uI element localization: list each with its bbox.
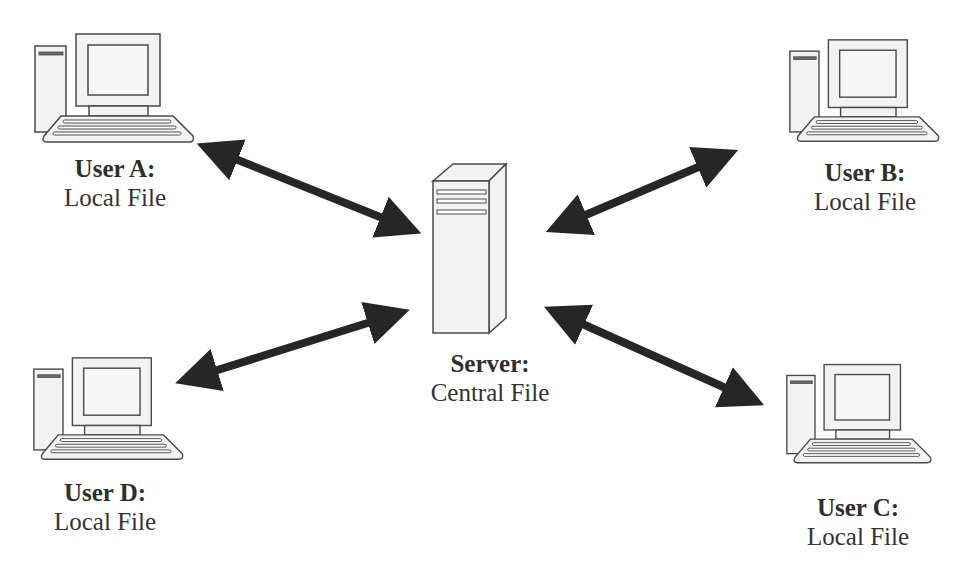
user-b-node: User B: Local File bbox=[785, 35, 955, 235]
arrow-user-a-server bbox=[213, 150, 405, 227]
user-a-node: User A: Local File bbox=[30, 30, 200, 230]
desktop-computer-icon bbox=[32, 355, 187, 465]
server-title: Server: bbox=[405, 350, 575, 379]
desktop-computer-icon bbox=[788, 37, 943, 147]
desktop-computer-icon bbox=[33, 32, 198, 147]
desktop-computer-icon bbox=[785, 360, 935, 470]
user-b-title: User B: bbox=[780, 159, 950, 188]
server-tower-icon bbox=[430, 160, 510, 335]
user-b-subtitle: Local File bbox=[780, 188, 950, 217]
user-a-title: User A: bbox=[30, 155, 200, 184]
arrow-user-d-server bbox=[192, 315, 393, 378]
server-node: Server: Central File bbox=[420, 158, 560, 423]
user-d-node: User D: Local File bbox=[30, 355, 200, 555]
user-d-title: User D: bbox=[20, 479, 190, 508]
user-a-subtitle: Local File bbox=[30, 184, 200, 213]
server-subtitle: Central File bbox=[405, 379, 575, 408]
user-c-node: User C: Local File bbox=[785, 360, 955, 580]
user-c-title: User C: bbox=[773, 494, 943, 523]
user-d-subtitle: Local File bbox=[20, 508, 190, 537]
user-c-subtitle: Local File bbox=[773, 523, 943, 552]
arrow-user-b-server bbox=[562, 157, 722, 225]
arrow-user-c-server bbox=[560, 314, 748, 398]
